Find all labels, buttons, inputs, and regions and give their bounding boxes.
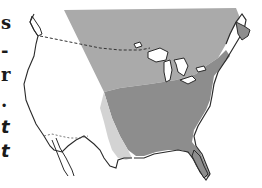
maritimes <box>236 22 250 40</box>
northern-zone <box>64 8 240 92</box>
north-america-map <box>0 0 262 188</box>
